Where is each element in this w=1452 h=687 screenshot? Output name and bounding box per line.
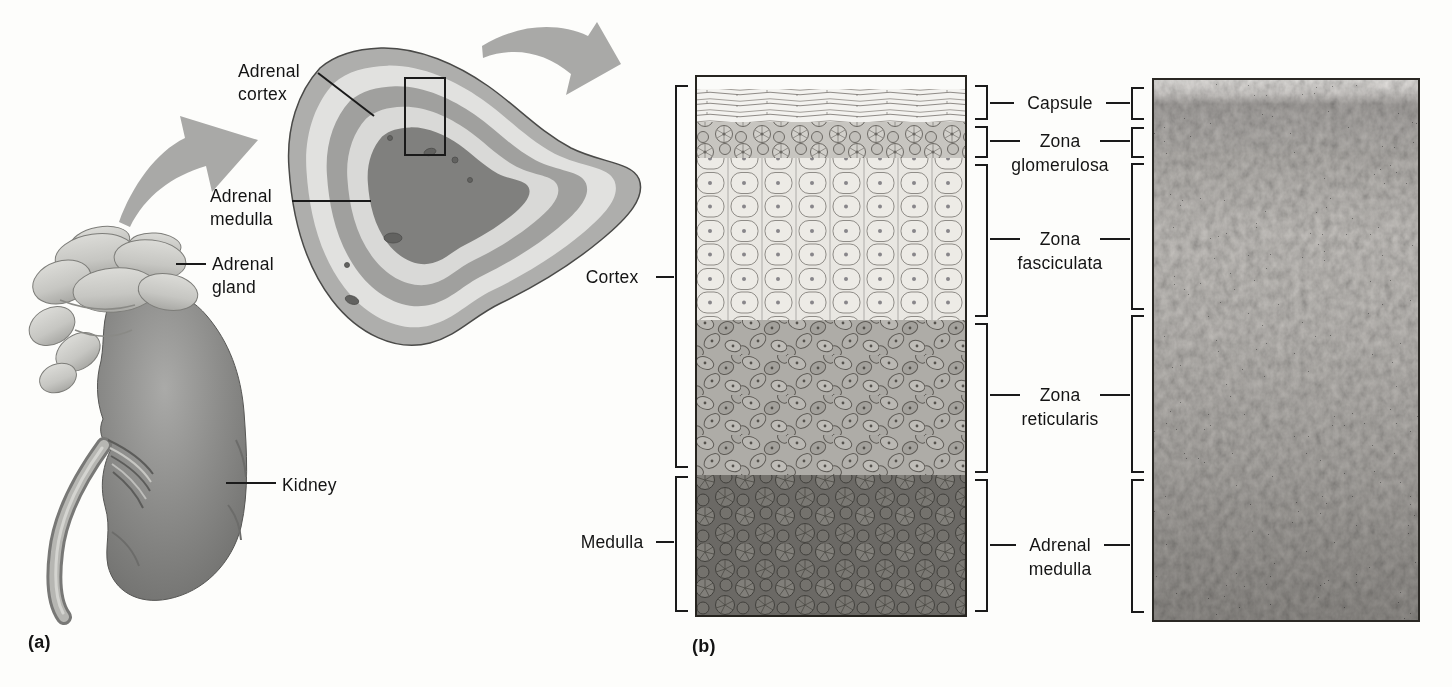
glomerulosa-bracket-drawing — [975, 126, 988, 158]
capsule-bracket-drawing — [975, 85, 988, 120]
reticularis-bracket-micrograph — [1131, 315, 1144, 473]
zona-fasciculata-label-line1: Zona — [1040, 229, 1081, 250]
capsule-bracket-micrograph — [1131, 87, 1144, 120]
reticularis-connector-left — [990, 394, 1020, 396]
micrograph-nuclei-speckle — [1154, 80, 1420, 622]
zona-reticularis-label-line1: Zona — [1040, 385, 1081, 406]
zona-glomerulosa-label-line1: Zona — [1040, 131, 1081, 152]
capsule-connector-right — [1106, 102, 1130, 104]
adrenal-layers-drawing — [695, 75, 967, 617]
capsule-connector-left — [990, 102, 1014, 104]
adrenal-medulla-connector-left — [990, 544, 1016, 546]
ureter-illustration — [54, 445, 104, 617]
adrenal-cortex-label: Adrenal cortex — [238, 60, 300, 106]
panel-b-tag: (b) — [692, 636, 716, 657]
fasciculata-connector-left — [990, 238, 1020, 240]
zona-glomerulosa-label-line2: glomerulosa — [1011, 155, 1109, 176]
panel-a-tag: (a) — [28, 632, 51, 653]
cortex-label: Cortex — [586, 267, 639, 288]
adrenal-medulla-connector-right — [1104, 544, 1130, 546]
glomerulosa-bracket-micrograph — [1131, 127, 1144, 158]
glomerulosa-connector-right — [1100, 140, 1130, 142]
panel-a-illustration — [0, 0, 680, 687]
adrenal-cross-section-illustration — [289, 48, 641, 345]
histology-micrograph — [1152, 78, 1420, 622]
zona-fasciculata-zone — [695, 158, 967, 320]
adrenal-medulla-zone — [695, 475, 967, 617]
figure-adrenal-gland: Adrenal cortex Adrenal medulla Adrenal g… — [0, 0, 1452, 687]
capsule-zone — [695, 89, 967, 122]
medulla-bracket — [675, 476, 688, 612]
medulla-label: Medulla — [581, 532, 644, 553]
curved-arrow-right-icon — [482, 22, 621, 95]
adrenal-medulla-bracket-drawing — [975, 479, 988, 612]
cortex-bracket — [675, 85, 688, 468]
capsule-label: Capsule — [1027, 93, 1093, 114]
adrenal-medulla-label-b-line2: medulla — [1029, 559, 1092, 580]
reticularis-bracket-drawing — [975, 323, 988, 473]
zona-glomerulosa-zone — [695, 122, 967, 158]
drawing-top-gap — [695, 75, 967, 89]
reticularis-connector-right — [1100, 394, 1130, 396]
zona-fasciculata-label-line2: fasciculata — [1018, 253, 1103, 274]
zona-reticularis-zone — [695, 320, 967, 475]
adrenal-medulla-bracket-micrograph — [1131, 479, 1144, 613]
adrenal-layers-drawing-svg — [695, 75, 967, 617]
kidney-label: Kidney — [282, 474, 337, 497]
medulla-connector — [656, 541, 674, 543]
adrenal-medulla-label-a: Adrenal medulla — [210, 185, 273, 231]
fasciculata-bracket-micrograph — [1131, 163, 1144, 310]
glomerulosa-connector-left — [990, 140, 1020, 142]
zona-reticularis-label-line2: reticularis — [1021, 409, 1098, 430]
fasciculata-connector-right — [1100, 238, 1130, 240]
cortex-connector — [656, 276, 674, 278]
adrenal-gland-label: Adrenal gland — [212, 253, 274, 299]
fasciculata-bracket-drawing — [975, 164, 988, 317]
adrenal-medulla-label-b-line1: Adrenal — [1029, 535, 1091, 556]
